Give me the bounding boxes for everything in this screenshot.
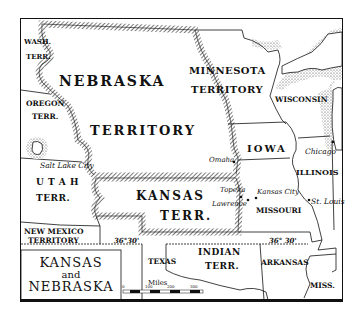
label-utah: U T A H	[36, 178, 79, 187]
label-indian-sub: TERR.	[205, 262, 239, 271]
label-oregon-sub: TERR.	[32, 113, 58, 121]
label-parallel-east: 36° 30'	[269, 237, 297, 244]
label-wash-terr-sub: TERR.	[26, 53, 51, 60]
label-utah-sub: TERR.	[36, 194, 70, 203]
scale-tick-0: 0	[122, 285, 125, 289]
salt-lake	[26, 137, 48, 159]
label-iowa: IOWA	[247, 144, 287, 154]
label-oregon: OREGON	[26, 100, 64, 108]
label-missouri: MISSOURI	[256, 207, 301, 215]
map-title-line-1: KANSAS	[39, 256, 102, 269]
label-lawrence: Lawrence	[212, 201, 247, 208]
label-chicago: Chicago	[305, 148, 336, 156]
label-wisconsin: WISCONSIN	[275, 96, 328, 104]
bottom-border	[20, 299, 343, 302]
label-st-louis: St. Louis	[311, 198, 345, 206]
label-illinois: ILLINOIS	[296, 168, 339, 176]
label-indian: INDIAN	[198, 248, 241, 257]
scale-tick-300: 300	[190, 285, 198, 289]
scale-tick-200: 200	[167, 285, 175, 289]
map-title-line-3: NEBRASKA	[28, 280, 113, 293]
label-miss: MISS.	[310, 282, 335, 290]
label-new-mexico: NEW MEXICO	[24, 228, 83, 236]
label-arkansas: ARKANSAS	[261, 259, 309, 267]
label-omaha: Omaha	[209, 157, 234, 164]
label-minnesota: MINNESOTA	[189, 66, 266, 76]
label-parallel-west: 36°30'	[114, 237, 139, 244]
scale-bar	[123, 290, 203, 293]
label-topeka: Topeka	[220, 187, 245, 194]
label-kansas-terr: TERR.	[160, 210, 212, 222]
label-nebraska-territory: TERRITORY	[90, 124, 196, 137]
label-kansas-city: Kansas City	[257, 189, 299, 196]
label-salt-lake-city: Salt Lake City	[40, 162, 94, 170]
scale-tick-100: 100	[145, 285, 153, 289]
label-wash-terr: WASH.	[24, 38, 51, 45]
label-kansas: KANSAS	[136, 190, 205, 202]
label-nebraska: NEBRASKA	[59, 74, 165, 88]
label-new-mexico-sub: TERRITORY	[28, 237, 79, 245]
label-texas: TEXAS	[148, 258, 176, 266]
map-title-box: KANSAS and NEBRASKA	[21, 250, 121, 299]
label-minnesota-territory: TERRITORY	[191, 85, 263, 95]
